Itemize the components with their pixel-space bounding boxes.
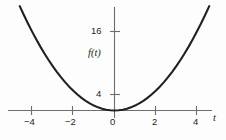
x-tick-label-pos4: 4 (193, 116, 198, 127)
x-tick-label-pos2: 2 (152, 116, 157, 127)
y-axis-label: f(t) (88, 47, 101, 58)
x-tick-label-neg2: −2 (65, 116, 76, 127)
x-tick-label-neg4: −4 (24, 116, 35, 127)
axes-group (8, 7, 212, 118)
x-axis-label: t (213, 112, 216, 123)
y-tick-label-16: 16 (91, 25, 102, 36)
parabola-chart-figure: −4 −2 0 2 4 4 16 f(t) t (0, 0, 226, 140)
y-tick-label-4: 4 (96, 88, 101, 99)
x-tick-label-zero: 0 (110, 116, 115, 127)
